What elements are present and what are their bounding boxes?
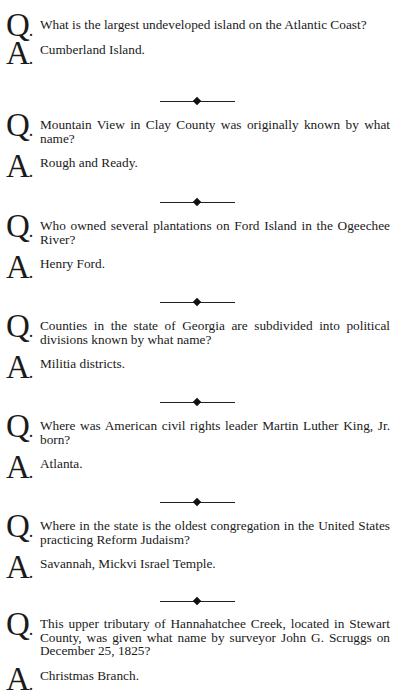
question-letter: Q. bbox=[6, 411, 32, 446]
question-row: Q. Where in the state is the oldest cong… bbox=[6, 511, 390, 546]
section-divider bbox=[160, 597, 235, 607]
question-text: What is the largest undeveloped island o… bbox=[40, 10, 390, 32]
question-row: Q. What is the largest undeveloped islan… bbox=[6, 10, 390, 32]
question-text: Counties in the state of Georgia are sub… bbox=[40, 311, 390, 346]
question-letter: Q. bbox=[6, 311, 32, 346]
answer-letter: A. bbox=[6, 552, 32, 587]
answer-text: Henry Ford. bbox=[40, 246, 390, 271]
answer-text: Atlanta. bbox=[40, 446, 390, 471]
answer-row: A. Militia districts. bbox=[6, 346, 390, 371]
answer-letter: A. bbox=[6, 38, 32, 73]
question-letter: Q. bbox=[6, 110, 32, 145]
section-divider bbox=[160, 97, 235, 107]
answer-text: Christmas Branch. bbox=[40, 658, 390, 683]
answer-text: Rough and Ready. bbox=[40, 145, 390, 170]
qa-item: Q. Who owned several plantations on Ford… bbox=[6, 211, 390, 271]
answer-row: A. Atlanta. bbox=[6, 446, 390, 471]
answer-letter: A. bbox=[6, 352, 32, 387]
question-text: Where was American civil rights leader M… bbox=[40, 411, 390, 446]
question-text: This upper tributary of Hannahatchee Cre… bbox=[40, 609, 390, 658]
question-text: Where in the state is the oldest congreg… bbox=[40, 511, 390, 546]
diamond-icon bbox=[193, 398, 201, 406]
trivia-page: Q. What is the largest undeveloped islan… bbox=[0, 0, 395, 698]
answer-letter: A. bbox=[6, 151, 32, 186]
answer-row: A. Christmas Branch. bbox=[6, 658, 390, 683]
answer-letter: A. bbox=[6, 664, 32, 698]
answer-row: A. Rough and Ready. bbox=[6, 145, 390, 170]
question-row: Q. Where was American civil rights leade… bbox=[6, 411, 390, 446]
answer-letter: A. bbox=[6, 452, 32, 487]
diamond-icon bbox=[193, 298, 201, 306]
answer-text: Cumberland Island. bbox=[40, 32, 390, 57]
question-row: Q. Who owned several plantations on Ford… bbox=[6, 211, 390, 246]
diamond-icon bbox=[193, 597, 201, 605]
answer-letter: A. bbox=[6, 252, 32, 287]
question-text: Mountain View in Clay County was origina… bbox=[40, 110, 390, 145]
question-row: Q. This upper tributary of Hannahatchee … bbox=[6, 609, 390, 658]
section-divider bbox=[160, 498, 235, 508]
answer-text: Savannah, Mickvi Israel Temple. bbox=[40, 546, 390, 571]
answer-row: A. Henry Ford. bbox=[6, 246, 390, 271]
question-text: Who owned several plantations on Ford Is… bbox=[40, 211, 390, 246]
question-row: Q. Counties in the state of Georgia are … bbox=[6, 311, 390, 346]
qa-item: Q. Counties in the state of Georgia are … bbox=[6, 311, 390, 371]
answer-text: Militia districts. bbox=[40, 346, 390, 371]
section-divider bbox=[160, 398, 235, 408]
qa-item: Q. Where was American civil rights leade… bbox=[6, 411, 390, 471]
question-letter: Q. bbox=[6, 211, 32, 246]
qa-item: Q. Where in the state is the oldest cong… bbox=[6, 511, 390, 571]
question-letter: Q. bbox=[6, 609, 32, 644]
answer-row: A. Cumberland Island. bbox=[6, 32, 390, 57]
qa-item: Q. What is the largest undeveloped islan… bbox=[6, 10, 390, 57]
question-row: Q. Mountain View in Clay County was orig… bbox=[6, 110, 390, 145]
answer-row: A. Savannah, Mickvi Israel Temple. bbox=[6, 546, 390, 571]
section-divider bbox=[160, 298, 235, 308]
qa-item: Q. This upper tributary of Hannahatchee … bbox=[6, 609, 390, 683]
diamond-icon bbox=[193, 198, 201, 206]
section-divider bbox=[160, 198, 235, 208]
diamond-icon bbox=[193, 97, 201, 105]
diamond-icon bbox=[193, 498, 201, 506]
question-letter: Q. bbox=[6, 511, 32, 546]
qa-item: Q. Mountain View in Clay County was orig… bbox=[6, 110, 390, 170]
